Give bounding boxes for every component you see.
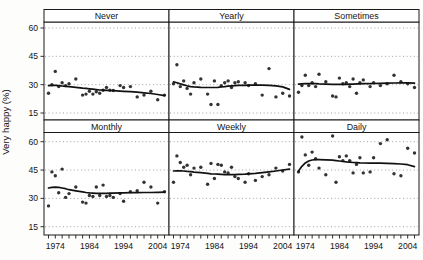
- data-point: [317, 166, 320, 169]
- data-point: [84, 201, 87, 204]
- data-point: [331, 134, 334, 137]
- data-point: [122, 86, 125, 89]
- data-point: [206, 183, 209, 186]
- panel-daily: [294, 133, 419, 236]
- y-tick-label: 60: [28, 137, 38, 147]
- y-tick-label: 45: [28, 165, 38, 175]
- data-point: [182, 79, 185, 82]
- data-point: [206, 92, 209, 95]
- data-point: [199, 166, 202, 169]
- data-point: [54, 70, 57, 73]
- panel-monthly: [44, 133, 169, 236]
- data-point: [307, 164, 310, 167]
- data-point: [91, 195, 94, 198]
- data-point: [399, 174, 402, 177]
- data-point: [254, 179, 257, 182]
- data-point: [379, 142, 382, 145]
- data-point: [297, 91, 300, 94]
- data-point: [288, 163, 291, 166]
- data-point: [185, 87, 188, 90]
- data-point: [105, 86, 108, 89]
- data-point: [149, 185, 152, 188]
- data-point: [358, 156, 361, 159]
- panel-strip-label: Weekly: [217, 122, 246, 132]
- panel-yearly: [169, 22, 294, 120]
- data-point: [47, 92, 50, 95]
- trellis-plot: 6045301560453015NeverYearlySometimesMont…: [0, 0, 423, 260]
- data-point: [98, 194, 101, 197]
- data-point: [372, 156, 375, 159]
- data-point: [274, 95, 277, 98]
- happiness-trellis-chart: 6045301560453015NeverYearlySometimesMont…: [0, 0, 423, 260]
- panel-weekly: [169, 133, 294, 236]
- data-point: [261, 175, 264, 178]
- data-point: [237, 177, 240, 180]
- data-point: [182, 166, 185, 169]
- data-point: [220, 164, 223, 167]
- data-point: [192, 81, 195, 84]
- data-point: [209, 162, 212, 165]
- y-tick-label: 15: [28, 222, 38, 232]
- y-axis-title: Very happy (%): [0, 89, 11, 155]
- data-point: [50, 170, 53, 173]
- data-point: [142, 93, 145, 96]
- data-point: [233, 81, 236, 84]
- data-point: [324, 173, 327, 176]
- panel-strip-label: Never: [95, 11, 119, 21]
- data-point: [345, 154, 348, 157]
- data-point: [209, 103, 212, 106]
- data-point: [334, 95, 337, 98]
- panel-strip-label: Yearly: [219, 11, 244, 21]
- data-point: [81, 93, 84, 96]
- data-point: [84, 92, 87, 95]
- data-point: [67, 192, 70, 195]
- data-point: [136, 95, 139, 98]
- data-point: [54, 174, 57, 177]
- data-point: [386, 138, 389, 141]
- x-tick-label: 2004: [148, 241, 167, 251]
- data-point: [64, 196, 67, 199]
- x-tick-label: 1984: [205, 241, 224, 251]
- data-point: [351, 171, 354, 174]
- data-point: [175, 63, 178, 66]
- data-point: [243, 181, 246, 184]
- data-point: [362, 78, 365, 81]
- data-point: [261, 93, 264, 96]
- data-point: [281, 92, 284, 95]
- data-point: [324, 80, 327, 83]
- data-point: [351, 77, 354, 80]
- data-point: [179, 161, 182, 164]
- data-point: [288, 94, 291, 97]
- data-point: [304, 74, 307, 77]
- data-point: [156, 201, 159, 204]
- x-tick-label: 1984: [330, 241, 349, 251]
- data-point: [331, 94, 334, 97]
- data-point: [392, 74, 395, 77]
- data-point: [142, 181, 145, 184]
- data-point: [81, 200, 84, 203]
- x-tick-label: 1984: [80, 241, 99, 251]
- data-point: [368, 85, 371, 88]
- data-point: [108, 194, 111, 197]
- x-tick-label: 1994: [364, 241, 383, 251]
- data-point: [74, 77, 77, 80]
- data-point: [310, 150, 313, 153]
- data-point: [179, 85, 182, 88]
- data-point: [129, 85, 132, 88]
- data-point: [101, 183, 104, 186]
- panel-never: [44, 22, 169, 120]
- data-point: [199, 77, 202, 80]
- data-point: [95, 185, 98, 188]
- data-point: [105, 195, 108, 198]
- data-point: [149, 90, 152, 93]
- data-point: [189, 173, 192, 176]
- data-point: [175, 154, 178, 157]
- data-point: [156, 98, 159, 101]
- data-point: [192, 166, 195, 169]
- panel-strip-label: Sometimes: [334, 11, 379, 21]
- data-point: [118, 84, 121, 87]
- data-point: [348, 85, 351, 88]
- data-point: [338, 155, 341, 158]
- data-point: [355, 92, 358, 95]
- data-point: [334, 181, 337, 184]
